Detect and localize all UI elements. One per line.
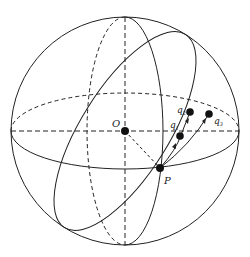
point-q1 xyxy=(176,132,184,140)
label-q2: q2 xyxy=(177,105,186,116)
label-P: P xyxy=(163,175,171,186)
point-q2 xyxy=(186,108,194,116)
label-q3: q3 xyxy=(214,116,223,127)
sphere-diagram: O P q1 q2 q3 xyxy=(0,0,250,257)
label-q1: q1 xyxy=(170,120,179,131)
radius-OP xyxy=(125,131,160,168)
point-q3 xyxy=(205,110,213,118)
arrow-icon xyxy=(172,143,176,149)
point-O xyxy=(121,127,129,135)
point-P xyxy=(156,164,164,172)
label-O: O xyxy=(112,118,120,129)
